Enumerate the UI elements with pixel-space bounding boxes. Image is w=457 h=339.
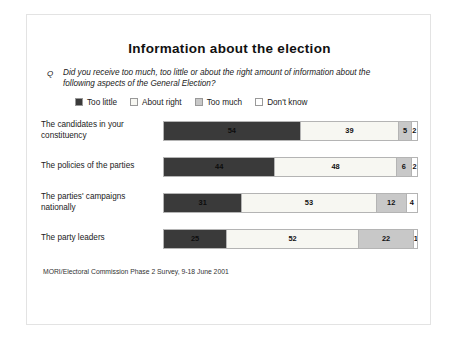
bar-segment: 22 <box>359 230 415 248</box>
bar-segment: 31 <box>164 194 242 212</box>
bar-segment: 2 <box>412 158 417 176</box>
chart-legend: Too littleAbout rightToo muchDon't know <box>75 98 418 107</box>
question-text: Did you receive too much, too little or … <box>63 68 393 90</box>
page-title: Information about the election <box>41 41 418 56</box>
stacked-bar: 543952 <box>163 121 418 141</box>
bar-segment: 52 <box>227 230 359 248</box>
category-label: The parties' campaigns nationally <box>41 192 163 213</box>
legend-item: About right <box>130 98 182 107</box>
stacked-bar: 3153124 <box>163 193 418 213</box>
legend-label: Don't know <box>267 98 307 107</box>
question-block: Q Did you receive too much, too little o… <box>47 68 418 90</box>
slide-content: Information about the election Q Did you… <box>41 25 418 316</box>
bar-segment: 5 <box>399 122 412 140</box>
stacked-bar: 2552221 <box>163 229 418 249</box>
stacked-bar: 444862 <box>163 157 418 177</box>
legend-swatch-icon <box>255 98 263 106</box>
legend-label: Too much <box>207 98 243 107</box>
bar-segment: 1 <box>414 230 417 248</box>
bar-segment: 2 <box>412 122 417 140</box>
chart-row: The policies of the parties444862 <box>41 150 418 184</box>
legend-swatch-icon <box>75 98 83 106</box>
category-label: The policies of the parties <box>41 161 163 172</box>
source-note: MORI/Electoral Commission Phase 2 Survey… <box>43 268 418 275</box>
question-marker: Q <box>47 68 63 78</box>
bar-segment: 48 <box>275 158 396 176</box>
bar-segment: 44 <box>164 158 275 176</box>
bar-segment: 12 <box>377 194 407 212</box>
bar-segment: 54 <box>164 122 301 140</box>
chart-row: The parties' campaigns nationally3153124 <box>41 186 418 220</box>
legend-label: About right <box>142 98 182 107</box>
bar-segment: 6 <box>397 158 412 176</box>
chart-row: The candidates in your constituency54395… <box>41 114 418 148</box>
bar-segment: 39 <box>301 122 400 140</box>
legend-swatch-icon <box>195 98 203 106</box>
legend-item: Too little <box>75 98 117 107</box>
bar-segment: 53 <box>242 194 376 212</box>
bar-segment: 4 <box>407 194 417 212</box>
slide: Information about the election Q Did you… <box>26 14 431 325</box>
legend-swatch-icon <box>130 98 138 106</box>
legend-item: Don't know <box>255 98 307 107</box>
stacked-bar-chart: The candidates in your constituency54395… <box>41 114 418 256</box>
chart-row: The party leaders2552221 <box>41 222 418 256</box>
legend-label: Too little <box>87 98 117 107</box>
category-label: The candidates in your constituency <box>41 120 163 141</box>
category-label: The party leaders <box>41 233 163 244</box>
bar-segment: 25 <box>164 230 227 248</box>
legend-item: Too much <box>195 98 243 107</box>
